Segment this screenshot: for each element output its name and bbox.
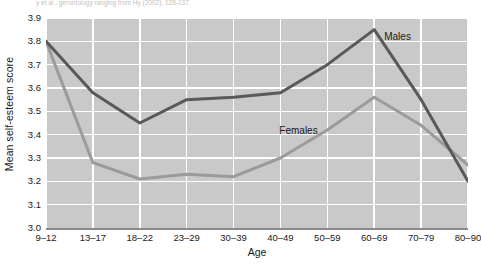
y-tick-label: 3.1 [28, 200, 41, 210]
y-axis-title-text: Mean self-esteem score [3, 57, 15, 171]
series-label-males: Males [384, 31, 411, 42]
plot-svg [46, 18, 468, 228]
x-tick-label: 18–22 [127, 231, 153, 244]
x-tick-label: 23–29 [173, 231, 199, 244]
x-axis-title: Age [46, 246, 468, 258]
x-axis-line [46, 228, 468, 230]
y-axis-title: Mean self-esteem score [0, 0, 18, 228]
x-tick-label: 13–17 [80, 231, 106, 244]
series-label-females: Females [279, 125, 317, 136]
x-axis-tick-labels: 9–1213–1718–2223–2930–3940–4950–5960–697… [46, 231, 468, 245]
x-tick-label: 30–39 [220, 231, 246, 244]
x-tick-label: 9–12 [35, 231, 56, 244]
y-axis-tick-labels: 3.03.13.23.33.43.53.63.73.83.9 [18, 0, 44, 264]
y-tick-label: 3.8 [28, 36, 41, 46]
y-tick-label: 3.4 [28, 130, 41, 140]
plot-area [46, 18, 468, 228]
x-tick-label: 70–79 [408, 231, 434, 244]
x-tick-label: 50–59 [314, 231, 340, 244]
source-caption: y et al., gerontology ranging from Hy (2… [36, 0, 236, 7]
y-tick-label: 3.7 [28, 60, 41, 70]
x-tick-label: 60–69 [361, 231, 387, 244]
y-tick-label: 3.5 [28, 106, 41, 116]
y-tick-label: 3.9 [28, 13, 41, 23]
y-tick-label: 3.2 [28, 176, 41, 186]
y-tick-label: 3.6 [28, 83, 41, 93]
y-tick-label: 3.3 [28, 153, 41, 163]
x-tick-label: 40–49 [267, 231, 293, 244]
x-tick-label: 80–90 [455, 231, 481, 244]
